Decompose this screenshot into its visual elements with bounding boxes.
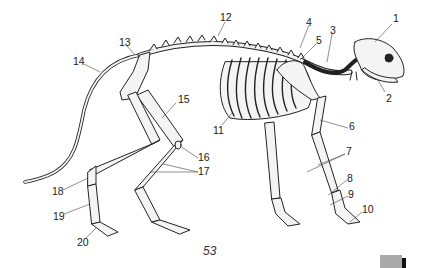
radius-ulna-back — [265, 122, 280, 199]
page-tab-marker — [380, 255, 402, 268]
label-5: 5 — [316, 35, 322, 46]
label-12: 12 — [220, 12, 232, 23]
label-10: 10 — [362, 204, 374, 215]
page-tab-bar — [402, 258, 406, 268]
label-19: 19 — [53, 211, 65, 222]
label-3: 3 — [330, 25, 336, 36]
radius-ulna-front — [312, 132, 338, 193]
front-paw-far — [272, 198, 300, 226]
label-4: 4 — [306, 17, 312, 28]
label-8: 8 — [347, 173, 353, 184]
calcaneus — [88, 166, 96, 186]
label-20: 20 — [77, 237, 89, 248]
hind-paw-far — [92, 222, 118, 236]
skull — [354, 39, 404, 80]
tibia-far — [90, 140, 160, 174]
page-number: 53 — [203, 244, 216, 258]
humerus — [312, 96, 326, 135]
label-9: 9 — [348, 189, 354, 200]
front-paw-near — [332, 190, 360, 224]
label-18: 18 — [52, 186, 64, 197]
label-14: 14 — [73, 56, 85, 67]
label-7: 7 — [346, 146, 352, 157]
cat-skeleton-illustration — [0, 0, 424, 268]
label-15: 15 — [178, 94, 190, 105]
label-13: 13 — [119, 37, 131, 48]
label-1: 1 — [393, 13, 399, 24]
label-11: 11 — [213, 125, 224, 136]
label-2: 2 — [386, 93, 392, 104]
label-6: 6 — [349, 121, 355, 132]
label-17: 17 — [198, 166, 210, 177]
skeleton-diagram: 1 2 3 4 5 6 7 8 9 10 11 12 13 14 15 16 1… — [0, 0, 424, 268]
metatarsus-near — [135, 187, 160, 222]
hind-paw-near — [152, 220, 190, 234]
label-16: 16 — [198, 152, 210, 163]
